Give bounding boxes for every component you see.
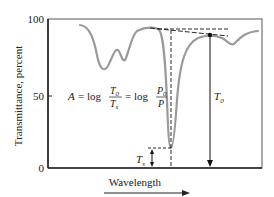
spectrum-curve: [80, 25, 258, 148]
formula-frac1-den: Ts: [110, 98, 119, 111]
t0-arrow-down-icon: [207, 160, 213, 167]
y-axis-label: Transmittance, percent: [12, 46, 24, 146]
absorbance-formula: A = log T0 Ts = log P0 P: [67, 85, 167, 111]
formula-frac1-num: T0: [110, 85, 120, 98]
formula-eq2: = log: [125, 90, 149, 102]
t0-label: T0: [214, 90, 224, 105]
y-tick-label-50: 50: [33, 90, 45, 102]
formula-frac2-den: P: [157, 98, 164, 109]
x-axis-label: Wavelength: [109, 176, 162, 188]
wavelength-arrow-icon: [182, 190, 190, 196]
ts-arrow-up-icon: [150, 149, 154, 154]
y-tick-label-0: 0: [39, 162, 45, 174]
y-tick-label-100: 100: [28, 13, 45, 25]
formula-eq1: = log: [78, 90, 102, 102]
ts-label: Ts: [136, 153, 145, 168]
ts-arrow-down-icon: [150, 162, 154, 167]
formula-lhs: A: [67, 90, 75, 102]
transmittance-spectrum-figure: 100 50 0 Transmittance, percent Waveleng…: [0, 0, 274, 197]
